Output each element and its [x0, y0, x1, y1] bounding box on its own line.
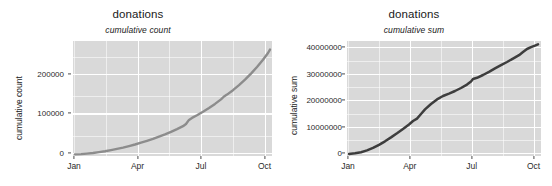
facet-cumulative-sum: donations cumulative sum cumulative sum … — [276, 0, 552, 186]
x-tick-mark-right-3 — [533, 156, 534, 159]
y-tick-mark-right-1 — [342, 126, 345, 127]
y-tick-mark-left-2 — [68, 73, 71, 74]
plot-panel-left — [73, 41, 272, 156]
y-tick-label-left-0: 0 — [60, 149, 64, 158]
x-tick-mark-right-2 — [471, 156, 472, 159]
x-tick-mark-left-1 — [137, 156, 138, 159]
line-series-cumulative-count — [73, 41, 272, 156]
x-tick-label-right-3: Oct — [527, 161, 540, 171]
x-tick-label-left-3: Oct — [258, 161, 271, 171]
line-series-cumulative-sum — [347, 41, 541, 156]
facet-cumulative-count: donations cumulative count cumulative co… — [0, 0, 276, 186]
y-axis-title-right: cumulative sum — [289, 76, 299, 135]
y-tick-label-left-1: 100000 — [37, 109, 64, 118]
chart-title-right: donations — [276, 8, 552, 20]
x-tick-label-right-2: Jul — [466, 161, 477, 171]
y-tick-label-right-1: 10000000 — [306, 122, 342, 131]
y-tick-mark-left-0 — [68, 152, 71, 153]
x-tick-mark-left-0 — [73, 156, 74, 159]
chart-subtitle-left: cumulative count — [0, 25, 276, 35]
x-tick-label-left-1: Apr — [131, 161, 144, 171]
chart-subtitle-right: cumulative sum — [276, 25, 552, 35]
x-tick-label-right-0: Jan — [341, 161, 355, 171]
y-tick-mark-right-4 — [342, 47, 345, 48]
y-tick-label-right-3: 30000000 — [306, 69, 342, 78]
x-tick-mark-right-0 — [347, 156, 348, 159]
x-tick-mark-left-2 — [200, 156, 201, 159]
y-tick-label-right-2: 20000000 — [306, 96, 342, 105]
plot-panel-right — [347, 41, 541, 156]
y-tick-label-right-4: 40000000 — [306, 43, 342, 52]
y-tick-mark-right-3 — [342, 73, 345, 74]
chart-title-left: donations — [0, 8, 276, 20]
x-tick-mark-left-3 — [264, 156, 265, 159]
y-tick-mark-right-2 — [342, 100, 345, 101]
y-tick-mark-right-0 — [342, 152, 345, 153]
y-tick-label-left-2: 200000 — [37, 69, 64, 78]
x-tick-label-left-2: Jul — [196, 161, 207, 171]
chart-sheet: donations cumulative count cumulative co… — [0, 0, 552, 186]
x-tick-label-left-0: Jan — [67, 161, 81, 171]
y-tick-mark-left-1 — [68, 113, 71, 114]
y-axis-title-left: cumulative count — [14, 76, 24, 140]
x-tick-mark-right-1 — [409, 156, 410, 159]
x-tick-label-right-1: Apr — [403, 161, 416, 171]
